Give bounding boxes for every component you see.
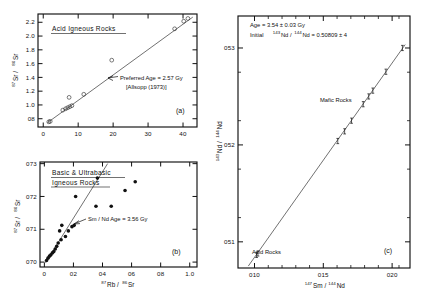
svg-text:051: 051 [224, 238, 235, 245]
svg-text:40: 40 [179, 130, 187, 137]
svg-text:Nd = 0.50809 ± 4: Nd = 0.50809 ± 4 [302, 32, 347, 38]
panel-b-title-1: Basic & Ultrabasic [52, 169, 111, 176]
data-point [55, 245, 59, 249]
svg-text:08: 08 [157, 270, 165, 277]
svg-text:10: 10 [75, 130, 83, 137]
svg-text:Sr: Sr [128, 281, 135, 288]
panel-b: 0700710720730020406081.0Basic & Ultrabas… [0, 150, 212, 307]
svg-text:Sr /: Sr / [12, 71, 19, 81]
svg-text:144: 144 [328, 281, 336, 286]
data-point [67, 229, 71, 233]
data-point [60, 224, 64, 228]
panel-c-annotation-initial: Initial143Nd /144Nd = 0.50809 ± 4 [250, 30, 348, 38]
panel-a-annotation-2: [Allsopp (1973)] [126, 84, 167, 90]
data-point [123, 189, 127, 193]
svg-text:0: 0 [43, 270, 47, 277]
data-point [59, 238, 63, 242]
svg-text:052: 052 [224, 141, 235, 148]
panel-c-label-mafic: Mafic Rocks [320, 97, 352, 103]
data-point [67, 95, 71, 99]
svg-text:Nd /: Nd / [216, 141, 223, 153]
svg-text:1.2: 1.2 [26, 87, 36, 94]
svg-text:Sr /: Sr / [14, 217, 21, 227]
svg-text:144: 144 [215, 130, 220, 138]
svg-text:073: 073 [26, 160, 37, 167]
svg-text:Rb /: Rb / [107, 281, 119, 288]
svg-text:020: 020 [387, 271, 398, 278]
svg-text:Initial: Initial [250, 32, 264, 38]
panel-b-id: (b) [172, 248, 181, 256]
panel-a-id: (a) [176, 107, 185, 115]
svg-text:86: 86 [122, 280, 127, 285]
data-point [182, 19, 186, 23]
svg-text:20: 20 [109, 130, 117, 137]
svg-text:2.0: 2.0 [26, 32, 36, 39]
svg-text:071: 071 [26, 225, 37, 232]
svg-text:072: 072 [26, 193, 37, 200]
svg-text:Nd /: Nd / [281, 32, 292, 38]
svg-text:147: 147 [305, 281, 313, 286]
svg-text:143: 143 [273, 30, 281, 35]
panel-c: 051052053010015020Age = 3.54 ± 0.03 GyIn… [212, 0, 424, 307]
svg-text:1.6: 1.6 [26, 60, 36, 67]
svg-text:08: 08 [28, 115, 36, 122]
data-point [133, 180, 137, 184]
panel-b-annotation-1: Sm / Nd Age = 3.56 Gy [88, 216, 148, 222]
svg-text:30: 30 [144, 130, 152, 137]
svg-text:87: 87 [11, 81, 16, 86]
panel-c-label-acid: Acid Rocks [252, 249, 281, 255]
data-point [94, 204, 98, 208]
data-point [64, 235, 68, 239]
svg-text:86: 86 [13, 206, 18, 211]
svg-text:02: 02 [70, 270, 78, 277]
svg-text:06: 06 [128, 270, 136, 277]
svg-text:0: 0 [41, 130, 45, 137]
svg-text:1.8: 1.8 [26, 46, 36, 53]
svg-text:Nd: Nd [337, 282, 346, 289]
svg-text:2.2: 2.2 [26, 18, 36, 25]
data-point [82, 92, 86, 96]
svg-text:86: 86 [11, 60, 16, 65]
svg-text:87: 87 [13, 227, 18, 232]
svg-text:1.4: 1.4 [26, 74, 36, 81]
svg-text:Sr: Sr [12, 53, 19, 60]
svg-text:1.0: 1.0 [26, 101, 36, 108]
svg-text:144: 144 [294, 30, 302, 35]
svg-text:Sr: Sr [14, 199, 21, 206]
panel-c-id: (c) [384, 247, 392, 255]
svg-text:053: 053 [224, 44, 235, 51]
panel-a-title: Acid Igneous Rocks [52, 25, 116, 33]
data-point [186, 17, 190, 21]
data-point [109, 204, 113, 208]
panel-a: 081.01.21.41.61.82.02.2010203040Acid Ign… [0, 0, 212, 152]
panel-a-annotation-1: Preferred Age = 2.57 Gy [120, 75, 183, 81]
svg-text:1.0: 1.0 [185, 270, 195, 277]
svg-text:Sm /: Sm / [313, 282, 326, 289]
data-point [56, 241, 60, 245]
data-point [110, 58, 114, 62]
panel-c-annotation-age: Age = 3.54 ± 0.03 Gy [250, 22, 305, 28]
svg-text:015: 015 [318, 271, 329, 278]
panel-b-title-2: Igneous Rocks [52, 179, 100, 187]
svg-text:070: 070 [26, 258, 37, 265]
svg-text:87: 87 [101, 280, 106, 285]
svg-text:Nd: Nd [216, 121, 223, 130]
isochron-figure: 081.01.21.41.61.82.02.2010203040Acid Ign… [0, 0, 424, 307]
svg-text:04: 04 [99, 270, 107, 277]
svg-text:010: 010 [249, 271, 260, 278]
svg-text:143: 143 [215, 153, 220, 161]
data-point [58, 229, 62, 233]
data-point [74, 195, 78, 199]
